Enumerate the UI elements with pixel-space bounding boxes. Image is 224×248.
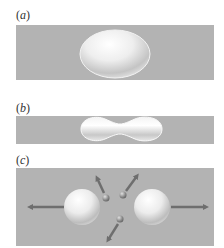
panel-b-nucleus: [81, 117, 162, 141]
neutron-3: [117, 216, 124, 223]
neutron-arrow-down-left-icon: [108, 224, 118, 240]
panel-a-nucleus: [80, 30, 150, 78]
fission-diagram: [0, 0, 224, 248]
neutron-2: [120, 192, 127, 199]
left-fragment-sphere: [64, 189, 100, 225]
neutron-arrow-up-right-icon: [126, 176, 137, 191]
neutron-1: [103, 195, 110, 202]
right-fragment-sphere: [134, 189, 170, 225]
panel-c-fragments: [30, 176, 206, 240]
neutron-arrow-up-left-icon: [97, 178, 104, 193]
